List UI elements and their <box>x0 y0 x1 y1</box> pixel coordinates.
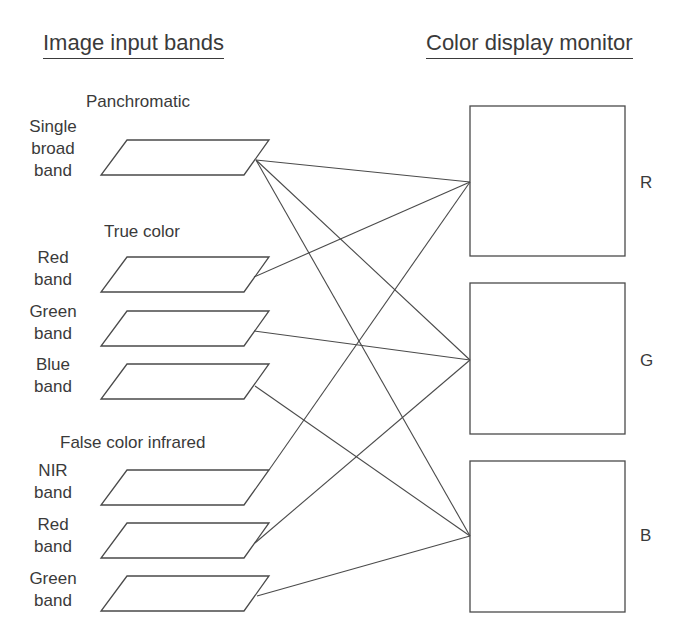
connector-true-blue-to-b <box>255 386 470 536</box>
band-mapping-diagram <box>0 0 686 638</box>
band-fcir-nir <box>101 470 269 505</box>
monitor-channel-g <box>470 283 625 434</box>
band-true-red <box>101 257 269 292</box>
connector-single-to-r <box>256 160 470 182</box>
connector-fcir-nir-to-r <box>269 182 470 470</box>
monitor-channel-b <box>470 461 625 612</box>
band-fcir-red <box>101 523 269 558</box>
band-true-blue <box>101 364 269 399</box>
connector-true-red-to-r <box>254 182 470 277</box>
band-single-broad <box>101 140 269 175</box>
monitor-channel-r <box>470 106 625 256</box>
connector-single-to-g <box>256 160 470 360</box>
band-fcir-green <box>101 576 269 611</box>
connector-fcir-green-to-b <box>257 536 470 596</box>
connector-single-to-b <box>256 160 470 536</box>
connector-fcir-red-to-g <box>255 360 470 543</box>
connector-true-green-to-g <box>254 331 470 360</box>
band-true-green <box>101 311 269 346</box>
